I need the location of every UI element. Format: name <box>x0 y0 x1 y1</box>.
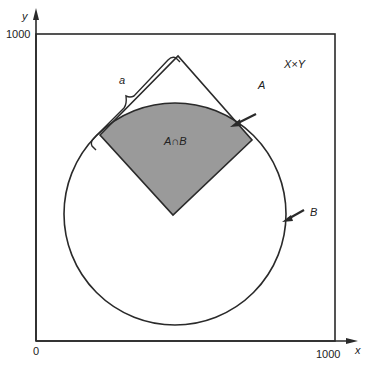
side-label: a <box>119 74 125 86</box>
y-axis-arrowhead <box>33 8 39 20</box>
x-max-label: 1000 <box>316 348 340 360</box>
intersection-label: A∩B <box>163 135 187 147</box>
universe-label: X×Y <box>283 58 306 70</box>
diagram-canvas: y 1000 0 1000 x X×Y A B A∩B a <box>0 0 376 372</box>
x-axis-label: x <box>354 344 361 356</box>
origin-label: 0 <box>33 345 39 357</box>
set-diagram: y 1000 0 1000 x X×Y A B A∩B a <box>0 0 376 372</box>
y-axis-label: y <box>21 10 29 22</box>
set-b-label: B <box>310 206 317 218</box>
set-a-label: A <box>257 79 265 91</box>
y-max-label: 1000 <box>6 28 30 40</box>
